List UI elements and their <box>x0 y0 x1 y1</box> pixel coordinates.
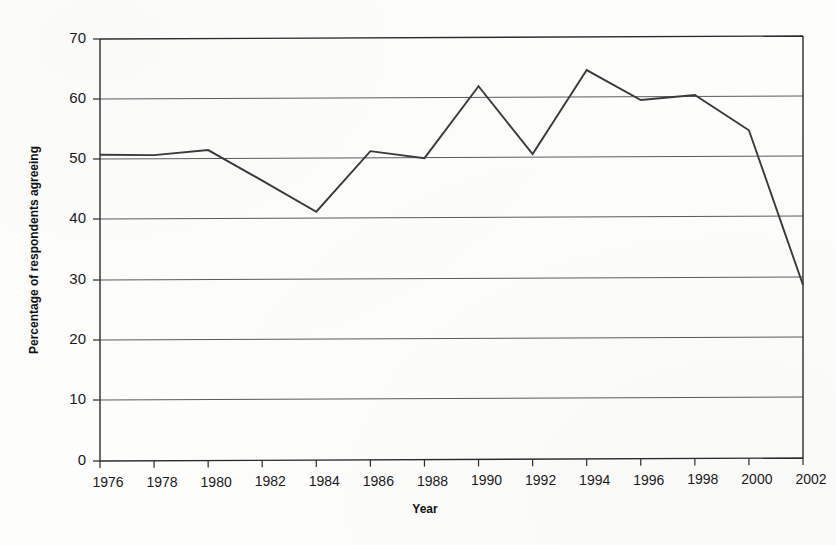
gridline-20 <box>100 337 803 340</box>
y-tick-label-40: 40 <box>69 209 86 226</box>
x-axis-line <box>100 458 803 461</box>
y-axis-tick-labels: 70 60 50 40 30 20 10 0 <box>69 29 86 468</box>
y-tick-label-60: 60 <box>69 89 86 106</box>
gridline-30 <box>100 277 803 280</box>
line-chart: 70 60 50 40 30 20 10 0 19761978198019821… <box>0 0 836 545</box>
x-tick-label-1976: 1976 <box>92 474 123 490</box>
x-tick-label-1982: 1982 <box>255 473 286 489</box>
x-tick-label-1994: 1994 <box>579 472 610 488</box>
y-tickmarks <box>93 39 100 461</box>
x-tick-label-1996: 1996 <box>633 472 664 488</box>
x-tick-label-1986: 1986 <box>363 473 394 489</box>
y-tick-label-50: 50 <box>69 149 86 166</box>
y-tick-label-10: 10 <box>69 390 86 407</box>
x-tick-label-1980: 1980 <box>201 474 232 490</box>
x-tick-label-2000: 2000 <box>741 471 772 487</box>
y-tick-label-20: 20 <box>69 330 86 347</box>
y-tick-label-70: 70 <box>69 29 86 46</box>
gridlines <box>100 96 803 400</box>
x-tick-label-1998: 1998 <box>687 471 718 487</box>
x-tick-label-1992: 1992 <box>525 472 556 488</box>
gridline-40 <box>100 216 803 219</box>
x-tick-label-1990: 1990 <box>471 472 502 488</box>
data-series-line <box>100 70 803 285</box>
chart-container: 70 60 50 40 30 20 10 0 19761978198019821… <box>0 0 836 545</box>
plot-top-border <box>100 36 803 39</box>
y-tick-label-30: 30 <box>69 270 86 287</box>
x-tick-label-1988: 1988 <box>417 473 448 489</box>
y-axis-title: Percentage of respondents agreeing <box>27 146 41 354</box>
gridline-50 <box>100 156 803 159</box>
x-axis-title: Year <box>412 502 438 516</box>
gridline-10 <box>100 397 803 400</box>
x-tick-label-1978: 1978 <box>147 474 178 490</box>
x-axis-tick-labels: 1976197819801982198419861988199019921994… <box>92 471 826 490</box>
y-tick-label-0: 0 <box>78 451 86 468</box>
x-tick-label-2002: 2002 <box>795 471 826 487</box>
x-tick-label-1984: 1984 <box>309 473 340 489</box>
